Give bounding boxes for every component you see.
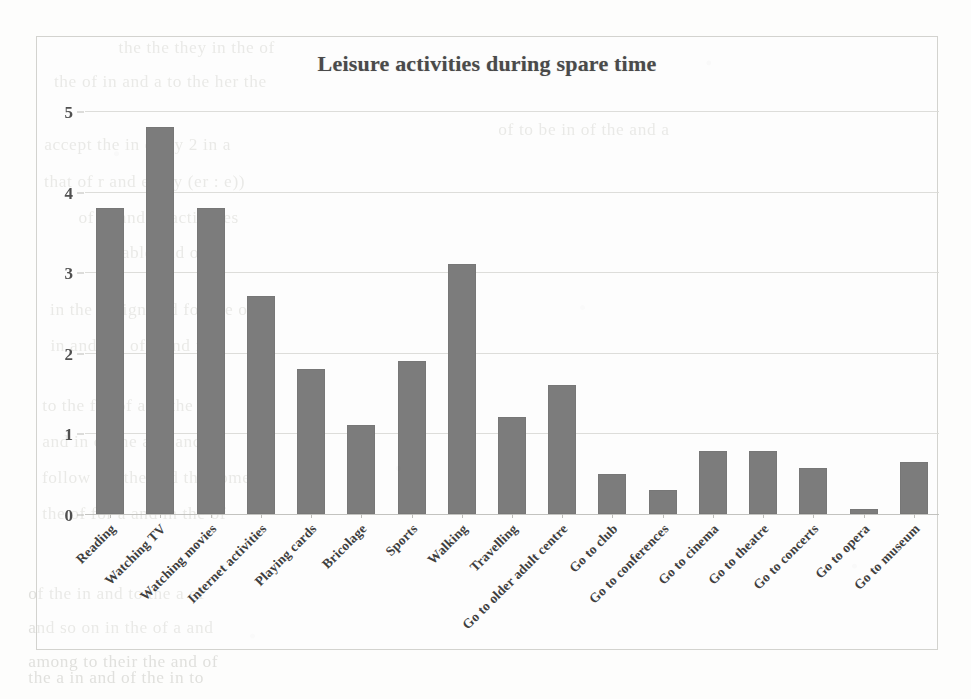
x-axis-tick-mark (813, 514, 814, 518)
x-axis-tick-label: Walking (424, 521, 471, 568)
bar[interactable] (598, 474, 626, 514)
bar-slot[interactable]: Go to theatre (738, 111, 788, 514)
bar[interactable] (799, 468, 827, 514)
x-axis-tick-mark (211, 514, 212, 518)
x-axis-tick-label: Bricolage (319, 521, 370, 572)
y-axis-tick-mark (77, 192, 84, 193)
x-axis-tick-mark (311, 514, 312, 518)
bars-group: ReadingWatching TVWatching moviesInterne… (85, 111, 939, 514)
bar-slot[interactable]: Go to conferences (638, 111, 688, 514)
x-axis-tick-mark (663, 514, 664, 518)
x-axis-tick-mark (261, 514, 262, 518)
bar-slot[interactable]: Watching TV (135, 111, 185, 514)
x-axis-tick-mark (763, 514, 764, 518)
x-axis-tick-mark (612, 514, 613, 518)
ghost-text-line: among to their the and of (28, 652, 218, 672)
bar[interactable] (247, 296, 275, 514)
bar[interactable] (448, 264, 476, 514)
y-axis-tick-mark (77, 353, 84, 354)
bar[interactable] (548, 385, 576, 514)
bar[interactable] (649, 490, 677, 514)
bar-slot[interactable]: Sports (386, 111, 436, 514)
bar-slot[interactable]: Go to older adult centre (537, 111, 587, 514)
chart-container: Leisure activities during spare time 012… (36, 36, 938, 650)
bar-slot[interactable]: Internet activities (236, 111, 286, 514)
y-axis-tick-mark (77, 273, 84, 274)
x-axis-tick-mark (412, 514, 413, 518)
bar-slot[interactable]: Go to museum (889, 111, 939, 514)
bar[interactable] (498, 417, 526, 514)
bar-slot[interactable]: Watching movies (185, 111, 235, 514)
bar-slot[interactable]: Walking (437, 111, 487, 514)
bar-slot[interactable]: Bricolage (336, 111, 386, 514)
y-axis-tick-label: 5 (65, 104, 74, 121)
x-axis-tick-mark (914, 514, 915, 518)
bar[interactable] (347, 425, 375, 514)
y-axis-tick-label: 4 (65, 184, 74, 201)
bar-slot[interactable]: Travelling (487, 111, 537, 514)
y-axis-tick-label: 2 (65, 345, 74, 362)
x-axis-tick-mark (160, 514, 161, 518)
y-axis-tick-label: 3 (65, 265, 74, 282)
y-axis-tick-mark (77, 434, 84, 435)
bar-slot[interactable]: Reading (85, 111, 135, 514)
x-axis-tick-mark (864, 514, 865, 518)
bar[interactable] (749, 451, 777, 514)
x-axis-tick-mark (361, 514, 362, 518)
bar-slot[interactable]: Go to concerts (788, 111, 838, 514)
bar[interactable] (146, 127, 174, 514)
bar-slot[interactable]: Go to opera (839, 111, 889, 514)
x-axis-tick-mark (462, 514, 463, 518)
ghost-text-line: the a in and of the in to (28, 668, 204, 688)
x-axis-tick-mark (512, 514, 513, 518)
x-axis-tick-mark (713, 514, 714, 518)
chart-title: Leisure activities during spare time (37, 51, 937, 77)
bar-slot[interactable]: Playing cards (286, 111, 336, 514)
bar-slot[interactable]: Go to cinema (688, 111, 738, 514)
bar-slot[interactable]: Go to club (587, 111, 637, 514)
x-axis-tick-mark (562, 514, 563, 518)
y-axis-tick-mark (77, 515, 84, 516)
bar[interactable] (699, 451, 727, 514)
scanned-page: the the they in the of the of in and a t… (0, 0, 971, 699)
bar[interactable] (297, 369, 325, 514)
bar[interactable] (96, 208, 124, 514)
x-axis-tick-mark (110, 514, 111, 518)
bar[interactable] (900, 462, 928, 514)
bar[interactable] (398, 361, 426, 514)
plot-area: 012345 ReadingWatching TVWatching movies… (85, 111, 939, 514)
bar[interactable] (197, 208, 225, 514)
y-axis-tick-label: 1 (65, 426, 74, 443)
x-axis-tick-label: Reading (73, 521, 119, 567)
y-axis-tick-label: 0 (65, 507, 74, 524)
y-axis-tick-mark (77, 112, 84, 113)
x-axis-tick-label: Sports (382, 521, 421, 560)
